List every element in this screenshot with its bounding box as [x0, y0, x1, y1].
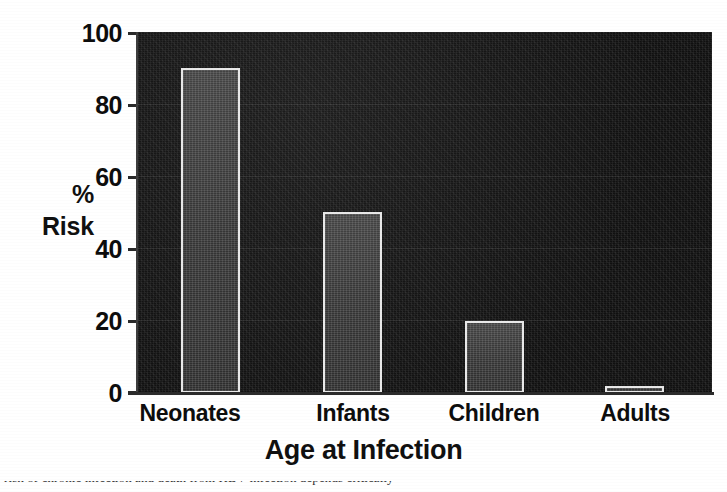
x-tick-label-children: Children: [432, 399, 556, 427]
plot-area: [138, 32, 712, 393]
cropped-caption-strip: risk of chronic infection and death from…: [0, 481, 727, 492]
bar-infants: [323, 212, 382, 393]
x-axis-line: [128, 392, 714, 395]
x-tick-label-neonates: Neonates: [130, 399, 250, 427]
y-tick-label-40: 40: [66, 237, 122, 262]
x-tick-label-infants: Infants: [293, 399, 413, 427]
y-tick-label-20: 20: [66, 309, 122, 334]
bar-neonates: [181, 68, 240, 393]
x-axis-title: Age at Infection: [0, 434, 727, 466]
y-tick-label-60: 60: [66, 165, 122, 190]
cropped-caption-text: risk of chronic infection and death from…: [4, 481, 727, 485]
y-axis-line: [136, 32, 138, 394]
y-tick-label-0: 0: [66, 381, 122, 406]
y-tick-label-100: 100: [66, 21, 122, 46]
bar-children: [465, 321, 524, 393]
y-tick-label-80: 80: [66, 93, 122, 118]
x-tick-label-adults: Adults: [575, 399, 695, 427]
bar-chart-figure: % Risk 100 80 60 40 20 0 Neonates Infant…: [0, 0, 727, 492]
